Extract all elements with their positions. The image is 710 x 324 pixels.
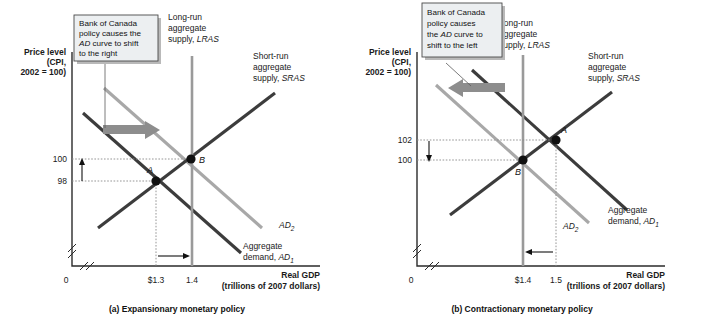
x-axis-title-line2-a: (trillions of 2007 dollars) bbox=[222, 281, 320, 291]
panel-contractionary-monetary-policy: A B Price level (CPI, 2002 = 100) 102 10… bbox=[355, 0, 710, 324]
y-tick-100-b: 100 bbox=[398, 155, 412, 165]
gdp-arrow-head-b bbox=[525, 249, 532, 255]
axis-lines-a bbox=[72, 52, 320, 266]
panel-expansionary-monetary-policy: A B Price level (CPI, 2002 = 100) 100 98… bbox=[0, 0, 355, 324]
origin-label-a: 0 bbox=[64, 275, 69, 285]
sras-label-line3-a: supply, SRAS bbox=[253, 73, 305, 83]
sras-label-line1-a: Short-run bbox=[253, 51, 289, 61]
equilibrium-point-a2 bbox=[551, 135, 560, 144]
ad1-label-line1-b: Aggregate bbox=[608, 205, 647, 215]
x-tick-14-b: $1.4 bbox=[515, 275, 532, 285]
figure-root: A B Price level (CPI, 2002 = 100) 100 98… bbox=[0, 0, 710, 324]
chart-b: A B Price level (CPI, 2002 = 100) 102 10… bbox=[355, 0, 710, 324]
caption-a: (a) Expansionary monetary policy bbox=[109, 304, 245, 314]
ad2-label-a: AD2 bbox=[278, 220, 295, 232]
sras-label-line3-b: supply, SRAS bbox=[588, 73, 640, 83]
gdp-arrow-head-a bbox=[183, 253, 190, 259]
equilibrium-point-a1 bbox=[151, 176, 160, 185]
callout-line4-b: shift to the left bbox=[427, 41, 478, 50]
point-label-B-b: B bbox=[515, 167, 521, 177]
y-tick-100-a: 100 bbox=[53, 154, 67, 164]
chart-a: A B Price level (CPI, 2002 = 100) 100 98… bbox=[0, 0, 355, 324]
shift-arrow-left-b bbox=[448, 79, 505, 97]
y-axis-title-line1-b: Price level bbox=[369, 47, 411, 57]
sras-label-line1-b: Short-run bbox=[588, 51, 624, 61]
x-axis-title-line2-b: (trillions of 2007 dollars) bbox=[567, 281, 665, 291]
point-label-A-a: A bbox=[146, 165, 153, 175]
origin-label-b: 0 bbox=[409, 275, 414, 285]
x-tick-14-a: 1.4 bbox=[186, 275, 198, 285]
sras-label-line2-b: aggregate bbox=[588, 62, 627, 72]
callout-line3-b: the AD curve to bbox=[427, 30, 483, 39]
callout-line1-b: Bank of Canada bbox=[427, 8, 486, 17]
lras-label-line3-a: supply, LRAS bbox=[168, 34, 219, 44]
callout-line1-a: Bank of Canada bbox=[79, 19, 138, 28]
callout-line3-a: AD curve to shift bbox=[78, 39, 139, 48]
caption-b: (b) Contractionary monetary policy bbox=[451, 304, 592, 314]
ad1-label-line2-b: demand, AD1 bbox=[608, 216, 659, 228]
ad1-label-line2-a: demand, AD1 bbox=[243, 252, 294, 264]
lras-label-line1-a: Long-run bbox=[168, 12, 202, 22]
y-tick-98-a: 98 bbox=[58, 176, 68, 186]
y-tick-102-b: 102 bbox=[398, 135, 412, 145]
y-axis-title-line2-b: (CPI, bbox=[392, 57, 411, 67]
equilibrium-point-b1 bbox=[186, 154, 195, 163]
x-tick-13-a: $1.3 bbox=[148, 275, 165, 285]
equilibrium-point-b2 bbox=[518, 155, 527, 164]
point-label-A-b: A bbox=[560, 125, 567, 135]
x-tick-15-b: 1.5 bbox=[550, 275, 562, 285]
lras-label-line3-b: supply, LRAS bbox=[499, 40, 550, 50]
y-axis-title-line2-a: (CPI, bbox=[47, 57, 66, 67]
price-arrow-head-b bbox=[426, 155, 432, 162]
curve-sras-b bbox=[450, 92, 612, 215]
callout-line4-a: to the right bbox=[79, 49, 118, 58]
axis-lines-b bbox=[417, 52, 665, 266]
ad1-label-line1-a: Aggregate bbox=[243, 241, 282, 251]
y-axis-title-line1-a: Price level bbox=[24, 47, 66, 57]
point-label-B-a: B bbox=[199, 155, 205, 165]
ad2-label-b: AD2 bbox=[562, 221, 579, 233]
curve-sras-a bbox=[98, 93, 275, 228]
x-axis-title-line1-b: Real GDP bbox=[626, 270, 665, 280]
x-axis-title-line1-a: Real GDP bbox=[281, 270, 320, 280]
lras-label-line2-a: aggregate bbox=[168, 23, 207, 33]
sras-label-line2-a: aggregate bbox=[253, 62, 292, 72]
callout-line2-b: policy causes bbox=[427, 19, 476, 28]
callout-line2-a: policy causes the bbox=[79, 29, 142, 38]
y-axis-title-line3-b: 2002 = 100) bbox=[365, 67, 411, 77]
y-axis-title-line3-a: 2002 = 100) bbox=[20, 67, 66, 77]
